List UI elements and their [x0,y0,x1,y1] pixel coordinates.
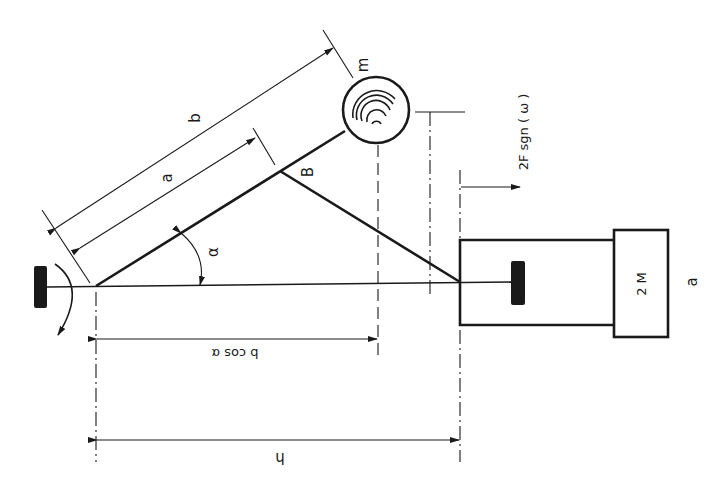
mechanism-diagram: b a B m α b cos α h 2 M 2F sgn ( ω ) a [0,0,722,498]
carriage [460,170,614,462]
arm-rod [96,131,345,286]
rotation-arrow-icon [55,264,72,335]
label-b-cos-alpha: b cos α [212,346,259,361]
label-mass-m: m [354,58,372,73]
dimension-b [56,48,333,228]
label-b: b [186,113,204,123]
link-rod [280,171,460,282]
label-force: 2F sgn ( ω ) [516,94,531,171]
pivot-support [34,266,47,308]
dimension-a [80,138,255,248]
rotor-mass [343,77,409,143]
base-axis [47,282,515,287]
label-point-b: B [299,167,317,177]
dim-ext-a-end [253,128,275,165]
panel-label: a [683,277,701,286]
dim-ext-b-end [323,30,353,78]
label-a: a [158,173,176,182]
label-h: h [275,449,285,467]
carriage-stop [511,261,525,305]
label-mass-2m: 2 M [634,272,649,296]
label-angle-alpha: α [204,247,222,257]
angle-arc [181,233,201,285]
